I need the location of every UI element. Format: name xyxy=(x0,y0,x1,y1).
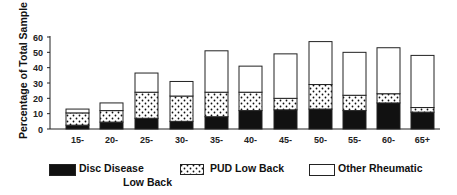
bar-segment xyxy=(274,98,297,110)
legend-label-disc-line2: Low Back xyxy=(123,176,172,188)
x-tick-label: 65+ xyxy=(415,135,430,145)
bar-35- xyxy=(205,51,228,129)
y-tick-label: 60 xyxy=(33,33,43,43)
legend-label-other: Other Rheumatic xyxy=(338,162,423,174)
bar-segment xyxy=(135,118,158,129)
x-tick-label: 55- xyxy=(348,135,361,145)
bar-segment xyxy=(205,92,228,117)
bar-segment xyxy=(66,113,89,125)
bar-segment xyxy=(205,51,228,92)
x-tick-label: 20- xyxy=(105,135,118,145)
bar-segment xyxy=(274,110,297,129)
bar-segment xyxy=(343,95,366,110)
y-tick-label: 0 xyxy=(38,125,43,135)
bar-segment xyxy=(66,109,89,113)
y-tick-label: 10 xyxy=(33,109,43,119)
x-tick-label: 15- xyxy=(71,135,84,145)
bar-segment xyxy=(274,54,297,98)
bar-segment xyxy=(170,81,193,96)
bar-65+ xyxy=(411,55,434,129)
bar-40- xyxy=(239,66,262,129)
bar-segment xyxy=(135,73,158,92)
bar-segment xyxy=(377,48,400,94)
bar-segment xyxy=(411,55,434,107)
legend-label-pud: PUD Low Back xyxy=(210,162,284,174)
x-tick-label: 60- xyxy=(382,135,395,145)
bar-55- xyxy=(343,52,366,129)
bar-50- xyxy=(309,42,332,129)
x-tick-label: 25- xyxy=(140,135,153,145)
legend-swatch-disc xyxy=(49,164,76,176)
bar-segment xyxy=(309,109,332,129)
bar-segment xyxy=(170,96,193,121)
bar-segment xyxy=(100,111,123,123)
bar-20- xyxy=(100,103,123,129)
bar-segment xyxy=(66,125,89,129)
bar-45- xyxy=(274,54,297,129)
y-tick-label: 20 xyxy=(33,94,43,104)
bar-segment xyxy=(239,66,262,92)
legend-swatch-other xyxy=(309,164,335,176)
bar-segment xyxy=(377,103,400,129)
legend-label-disc-line1: Disc Disease xyxy=(79,162,144,174)
x-tick-label: 30- xyxy=(175,135,188,145)
y-tick-label: 30 xyxy=(33,79,43,89)
y-tick-label: 40 xyxy=(33,63,43,73)
bar-segment xyxy=(239,92,262,110)
bar-60- xyxy=(377,48,400,129)
bar-segment xyxy=(239,111,262,129)
bar-25- xyxy=(135,73,158,129)
bars xyxy=(66,42,434,129)
x-tick-labels: 15-20-25-30-35-40-45-50-55-60-65+ xyxy=(71,135,430,145)
x-tick-label: 50- xyxy=(314,135,327,145)
y-axis-label: Percentage of Total Sample xyxy=(17,9,29,139)
bar-30- xyxy=(170,81,193,129)
bar-segment xyxy=(343,111,366,129)
bar-segment xyxy=(100,122,123,129)
x-tick-label: 35- xyxy=(210,135,223,145)
bar-15- xyxy=(66,109,89,129)
bar-segment xyxy=(100,103,123,111)
bar-segment xyxy=(377,94,400,103)
bar-segment xyxy=(170,121,193,129)
bar-segment xyxy=(411,108,434,113)
x-tick-label: 45- xyxy=(279,135,292,145)
bar-segment xyxy=(205,117,228,129)
bar-segment xyxy=(343,52,366,95)
legend-swatch-pud xyxy=(180,164,203,174)
x-tick-label: 40- xyxy=(244,135,257,145)
bar-segment xyxy=(411,112,434,129)
bar-segment xyxy=(309,85,332,110)
bar-segment xyxy=(309,42,332,85)
y-tick-label: 50 xyxy=(33,48,43,58)
bar-segment xyxy=(135,92,158,118)
